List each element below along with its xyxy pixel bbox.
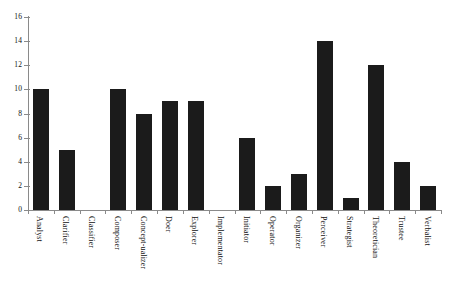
y-axis-tick	[24, 138, 30, 139]
y-axis-tick-label-text: 10	[0, 85, 22, 93]
x-axis-tick-label: Classifier	[87, 216, 96, 248]
y-axis-tick-label: 0	[0, 206, 22, 214]
x-axis-tick	[105, 210, 106, 214]
x-axis-tick-label: Composer	[113, 216, 122, 250]
y-axis-tick-label-text: 8	[0, 110, 22, 118]
bar	[265, 186, 281, 210]
bar	[368, 65, 384, 210]
x-axis-tick	[441, 210, 442, 214]
bar	[317, 41, 333, 210]
y-axis-tick-label-text: 2	[0, 182, 22, 190]
x-axis-tick-label: Verbalist	[423, 216, 432, 246]
bar	[291, 174, 307, 210]
x-axis-tick-label: Organizer	[294, 216, 303, 249]
y-axis-tick-label-text: 6	[0, 134, 22, 142]
x-axis-tick-label: Analyst	[35, 216, 44, 242]
bar	[33, 89, 49, 210]
y-axis-tick-label-text: 14	[0, 37, 22, 45]
y-axis-tick	[24, 89, 30, 90]
y-axis-tick-label: 8	[0, 110, 22, 118]
y-axis-tick-label: 12	[0, 61, 22, 69]
bar	[136, 114, 152, 211]
y-axis-tick	[24, 162, 30, 163]
y-axis-tick-label-text: 16	[0, 13, 22, 21]
y-axis-tick-label-text: 0	[0, 206, 22, 214]
x-axis-tick-label: Trustee	[397, 216, 406, 241]
x-axis-tick-label: Doer	[164, 216, 173, 233]
x-axis-tick-label: Implementator	[216, 216, 225, 265]
y-axis-tick-label: 6	[0, 134, 22, 142]
y-axis-tick-label: 2	[0, 182, 22, 190]
x-axis-tick-label: Operator	[268, 216, 277, 246]
x-axis-tick-label: Initiator	[242, 216, 251, 243]
x-axis-tick-label: Theoretician	[371, 216, 380, 258]
y-axis-tick	[24, 186, 30, 187]
x-axis-tick-label: Explorer	[190, 216, 199, 245]
y-axis-tick	[24, 41, 30, 42]
x-axis-tick	[260, 210, 261, 214]
x-axis-tick-label: Concept-ualizer	[139, 216, 148, 269]
bar	[59, 150, 75, 210]
x-axis-tick-label: Strategist	[345, 216, 354, 248]
y-axis-tick	[24, 65, 30, 66]
bar	[343, 198, 359, 210]
x-axis-tick	[131, 210, 132, 214]
bar	[188, 101, 204, 210]
y-axis-tick-label: 4	[0, 158, 22, 166]
y-axis-tick	[24, 114, 30, 115]
bar	[394, 162, 410, 210]
x-axis-tick	[209, 210, 210, 214]
y-axis-tick-label-text: 12	[0, 61, 22, 69]
y-axis-tick-label: 16	[0, 13, 22, 21]
x-axis-tick	[235, 210, 236, 214]
bar	[110, 89, 126, 210]
bar	[162, 101, 178, 210]
x-axis-tick	[312, 210, 313, 214]
y-axis-tick	[24, 210, 30, 211]
y-axis-tick-label: 14	[0, 37, 22, 45]
x-axis-tick-label: Perceiver	[319, 216, 328, 248]
y-axis-tick-label-text: 4	[0, 158, 22, 166]
x-axis-tick-label: Clarifier	[61, 216, 70, 244]
x-axis-tick	[286, 210, 287, 214]
y-axis-tick-label: 10	[0, 85, 22, 93]
x-axis-tick	[338, 210, 339, 214]
y-axis-tick	[24, 17, 30, 18]
x-axis-tick	[364, 210, 365, 214]
x-axis-tick	[157, 210, 158, 214]
x-axis-tick	[183, 210, 184, 214]
bar	[239, 138, 255, 210]
x-axis-tick	[54, 210, 55, 214]
x-axis-tick	[80, 210, 81, 214]
x-axis-tick	[415, 210, 416, 214]
bar-chart: 0246810121416 AnalystClarifierClassifier…	[0, 0, 451, 288]
x-axis-tick	[389, 210, 390, 214]
x-axis-tick	[28, 210, 29, 214]
bar	[420, 186, 436, 210]
